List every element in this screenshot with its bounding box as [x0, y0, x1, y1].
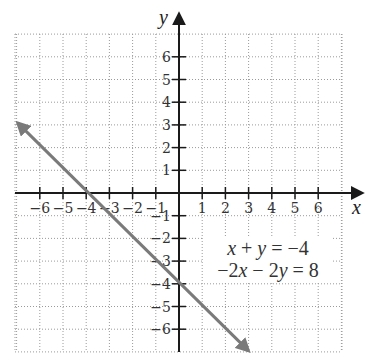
x-tick-label: −4	[76, 200, 97, 216]
x-tick-label: −5	[53, 200, 74, 216]
y-tick-label: 5	[162, 72, 171, 88]
y-tick-label: 6	[162, 49, 171, 65]
equation-2: −2x − 2y = 8	[217, 259, 319, 282]
x-tick-label: −2	[122, 200, 143, 216]
axes	[15, 14, 362, 352]
y-tick-label: −1	[150, 208, 171, 224]
y-tick-label: 2	[162, 140, 171, 156]
y-tick-label: −5	[150, 299, 171, 315]
coordinate-plane: −6−5−4−3−2−1123456−6−5−4−3−2−1123456 x y	[0, 0, 370, 357]
x-tick-label: 3	[244, 200, 253, 216]
x-tick-label: 4	[267, 200, 276, 216]
x-tick-label: 6	[314, 200, 323, 216]
y-tick-label: −2	[150, 230, 171, 246]
y-tick-label: −6	[150, 321, 171, 337]
x-tick-label: 1	[198, 200, 207, 216]
x-axis-label: x	[351, 196, 361, 218]
x-tick-label: −6	[29, 200, 50, 216]
equation-label-box: x + y = −4 −2x − 2y = 8	[203, 237, 333, 283]
y-tick-label: 1	[162, 162, 171, 178]
y-tick-label: 4	[162, 94, 171, 110]
y-tick-label: 3	[162, 117, 171, 133]
x-tick-label: 2	[221, 200, 230, 216]
y-tick-label: −4	[150, 276, 171, 292]
x-tick-label: 5	[291, 200, 300, 216]
y-axis-label: y	[157, 6, 168, 29]
equation-1: x + y = −4	[226, 237, 309, 260]
